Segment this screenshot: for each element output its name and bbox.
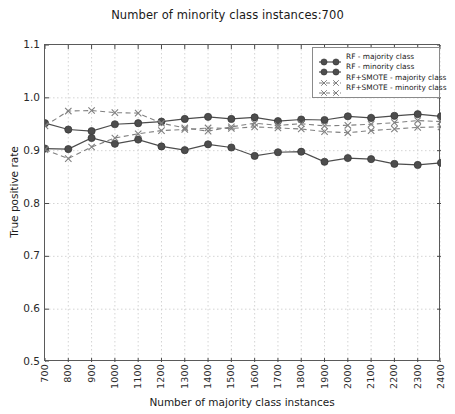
data-point bbox=[368, 156, 375, 163]
y-axis-tick-labels: 0.50.60.70.80.91.01.1 bbox=[0, 0, 40, 414]
x-tick-label: 2000 bbox=[342, 364, 353, 389]
x-tick-label: 1600 bbox=[249, 364, 260, 389]
chart-figure: Number of minority class instances:700 0… bbox=[0, 0, 455, 414]
data-point bbox=[65, 155, 71, 161]
data-point bbox=[204, 141, 211, 148]
chart-legend: RF - majority classRF - minority classRF… bbox=[312, 47, 440, 98]
data-point bbox=[391, 112, 398, 119]
data-point bbox=[228, 144, 235, 151]
series-line bbox=[45, 138, 441, 165]
legend-label: RF - minority class bbox=[346, 62, 414, 72]
data-point bbox=[298, 148, 305, 155]
x-axis-tick-labels: 7008009001000110012001300140015001600170… bbox=[0, 364, 455, 398]
data-point bbox=[65, 126, 72, 133]
data-point bbox=[437, 159, 441, 166]
data-point bbox=[298, 116, 305, 123]
x-tick-label: 1700 bbox=[272, 364, 283, 389]
x-tick-label: 700 bbox=[39, 364, 50, 383]
series-3 bbox=[45, 124, 441, 162]
legend-item: RF - minority class bbox=[313, 62, 439, 72]
data-point bbox=[181, 147, 188, 154]
x-tick-label: 1000 bbox=[109, 364, 120, 389]
legend-marker-icon bbox=[317, 52, 343, 62]
x-tick-label: 2200 bbox=[388, 364, 399, 389]
x-tick-label: 1300 bbox=[179, 364, 190, 389]
x-tick-label: 1100 bbox=[132, 364, 143, 389]
data-point bbox=[391, 160, 398, 167]
data-point bbox=[88, 134, 95, 141]
x-axis-label: Number of majority class instances bbox=[44, 396, 440, 408]
x-tick-label: 900 bbox=[86, 364, 97, 383]
x-tick-label: 1500 bbox=[225, 364, 236, 389]
legend-label: RF+SMOTE - minority class bbox=[346, 83, 447, 93]
legend-marker-icon bbox=[317, 73, 343, 83]
data-point bbox=[368, 114, 375, 121]
chart-title: Number of minority class instances:700 bbox=[0, 8, 455, 22]
x-tick-label: 800 bbox=[62, 364, 73, 383]
x-tick-label: 1900 bbox=[319, 364, 330, 389]
data-point bbox=[274, 117, 281, 124]
legend-marker-icon bbox=[317, 83, 343, 93]
data-point bbox=[414, 161, 421, 168]
data-point bbox=[414, 111, 421, 118]
series-line bbox=[45, 127, 441, 159]
x-tick-label: 1200 bbox=[155, 364, 166, 389]
data-point bbox=[344, 154, 351, 161]
data-point bbox=[274, 149, 281, 156]
data-point bbox=[111, 121, 118, 128]
series-1 bbox=[45, 134, 441, 168]
legend-item: RF+SMOTE - minority class bbox=[313, 83, 439, 93]
legend-label: RF+SMOTE - majority class bbox=[346, 73, 446, 83]
x-tick-label: 2300 bbox=[412, 364, 423, 389]
x-tick-label: 1400 bbox=[202, 364, 213, 389]
y-tick-label: 0.6 bbox=[6, 302, 40, 314]
x-tick-label: 2400 bbox=[435, 364, 446, 389]
data-point bbox=[135, 120, 142, 127]
y-axis-label: True positive rate bbox=[8, 132, 20, 252]
legend-label: RF - majority class bbox=[346, 52, 414, 62]
y-tick-label: 1.1 bbox=[6, 38, 40, 50]
x-tick-label: 1800 bbox=[295, 364, 306, 389]
data-point bbox=[251, 152, 258, 159]
data-point bbox=[344, 113, 351, 120]
data-point bbox=[181, 115, 188, 122]
legend-item: RF - majority class bbox=[313, 52, 439, 62]
data-point bbox=[65, 145, 72, 152]
legend-marker-icon bbox=[317, 62, 343, 72]
series-line bbox=[45, 114, 441, 131]
data-point bbox=[158, 143, 165, 150]
data-point bbox=[204, 113, 211, 120]
data-point bbox=[321, 158, 328, 165]
legend-item: RF+SMOTE - majority class bbox=[313, 73, 439, 83]
data-point bbox=[228, 115, 235, 122]
series-0 bbox=[45, 111, 441, 135]
y-tick-label: 1.0 bbox=[6, 91, 40, 103]
x-tick-label: 2100 bbox=[365, 364, 376, 389]
data-point bbox=[88, 128, 95, 135]
